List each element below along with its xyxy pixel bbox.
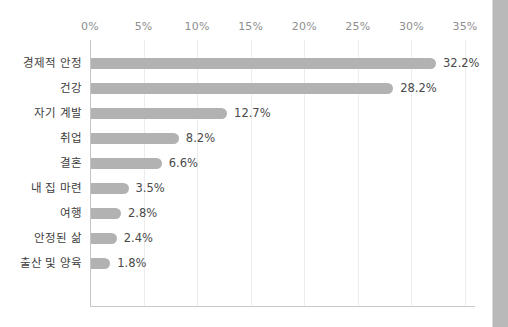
x-axis-line [90,306,475,307]
x-tick-label: 35% [435,20,495,33]
bar-row: 출산 및 양육1.8% [0,251,507,276]
bar-value-label: 8.2% [186,126,215,151]
bar-value-label: 3.5% [136,176,165,201]
bar [91,183,129,194]
category-label: 취업 [0,126,82,151]
bar-value-label: 2.4% [124,226,153,251]
bar-row: 내 집 마련3.5% [0,176,507,201]
bar-row: 안정된 삶2.4% [0,226,507,251]
bar-value-label: 6.6% [169,151,198,176]
category-label: 내 집 마련 [0,176,82,201]
bar [91,83,393,94]
category-label: 자기 계발 [0,101,82,126]
x-tick-label: 10% [167,20,227,33]
bar [91,233,117,244]
bar-row: 결혼6.6% [0,151,507,176]
x-tick-label: 5% [114,20,174,33]
bar-row: 자기 계발12.7% [0,101,507,126]
x-tick-label: 15% [221,20,281,33]
bar-value-label: 2.8% [128,201,157,226]
x-tick-label: 25% [328,20,388,33]
bar [91,133,179,144]
bar-row: 건강28.2% [0,76,507,101]
category-label: 안정된 삶 [0,226,82,251]
bar [91,58,436,69]
category-label: 여행 [0,201,82,226]
x-tick-label: 0% [60,20,120,33]
category-label: 건강 [0,76,82,101]
page-gutter [492,0,508,327]
bar [91,108,227,119]
bar-row: 경제적 안정32.2% [0,51,507,76]
bar [91,258,110,269]
bar-row: 여행2.8% [0,201,507,226]
bar-value-label: 32.2% [443,51,480,76]
bar [91,208,121,219]
category-label: 경제적 안정 [0,51,82,76]
category-label: 결혼 [0,151,82,176]
x-tick-label: 30% [381,20,441,33]
x-tick-label: 20% [274,20,334,33]
bar-value-label: 12.7% [234,101,271,126]
bar-value-label: 1.8% [117,251,146,276]
bar-value-label: 28.2% [400,76,437,101]
bar-row: 취업8.2% [0,126,507,151]
category-label: 출산 및 양육 [0,251,82,276]
bar [91,158,162,169]
